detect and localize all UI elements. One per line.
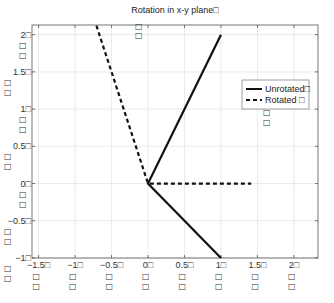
x-tick-label-glyph: □ bbox=[215, 282, 223, 291]
title-glyph: □ bbox=[135, 31, 143, 40]
x-tick-labels: −1.5□□□−1□□□−0.5□□□0□□□0.5□□□1□□□1.5□□□2… bbox=[27, 260, 300, 291]
y-tick-label-glyph: □ bbox=[4, 264, 12, 273]
x-tick-label-glyph: □ bbox=[288, 282, 296, 291]
y-tick-label-glyph: □ bbox=[19, 190, 27, 199]
x-tick-label-glyph: □ bbox=[106, 282, 114, 291]
y-tick-label: 1.5□ bbox=[13, 67, 32, 77]
legend-label: Rotated □ bbox=[265, 95, 305, 105]
x-tick-label-glyph: □ bbox=[251, 272, 259, 281]
grid-lines bbox=[32, 25, 318, 258]
series-group bbox=[96, 26, 251, 258]
y-tick-label: 0.5□ bbox=[13, 141, 32, 151]
y-tick-label-glyph: □ bbox=[19, 125, 27, 134]
y-tick-label-glyph: □ bbox=[4, 227, 12, 236]
y-tick-label-glyph: □ bbox=[19, 51, 27, 60]
x-tick-label-glyph: □ bbox=[142, 272, 150, 281]
x-tick-label: −1□ bbox=[67, 260, 83, 270]
x-tick-label: 1.5□ bbox=[248, 260, 267, 270]
y-tick-label-glyph: □ bbox=[4, 162, 12, 171]
y-tick-label: −0.5□ bbox=[8, 216, 32, 226]
y-tick-labels: −1□□□−0.5□□□0□□□0.5□□□1□□□1.5□□□2□□□ bbox=[4, 30, 32, 283]
x-tick-label-glyph: □ bbox=[251, 282, 259, 291]
legend-glyph: □ bbox=[263, 118, 271, 127]
rotation-chart: −1.5□□□−1□□□−0.5□□□0□□□0.5□□□1□□□1.5□□□2… bbox=[0, 0, 334, 303]
legend-label: Unrotated□ bbox=[265, 84, 311, 94]
x-tick-label: 1□ bbox=[216, 260, 227, 270]
y-tick-label: 1□ bbox=[21, 104, 32, 114]
x-tick-label-glyph: □ bbox=[33, 272, 41, 281]
series-line-rotated bbox=[96, 26, 251, 184]
x-tick-label-glyph: □ bbox=[215, 272, 223, 281]
y-tick-label-glyph: □ bbox=[4, 237, 12, 246]
x-tick-label-glyph: □ bbox=[142, 282, 150, 291]
chart-title: Rotation in x-y plane□ bbox=[131, 5, 219, 15]
x-tick-label: 2□ bbox=[289, 260, 300, 270]
x-tick-label-glyph: □ bbox=[178, 272, 186, 281]
x-tick-label: 0□ bbox=[143, 260, 154, 270]
y-tick-label-glyph: □ bbox=[19, 41, 27, 50]
y-tick-label: 2□ bbox=[21, 30, 32, 40]
x-tick-label: −0.5□ bbox=[100, 260, 124, 270]
y-tick-label-glyph: □ bbox=[4, 152, 12, 161]
x-tick-label-glyph: □ bbox=[69, 272, 77, 281]
title-glyph: □ bbox=[135, 22, 143, 31]
y-tick-label-glyph: □ bbox=[4, 274, 12, 283]
x-tick-label-glyph: □ bbox=[106, 272, 114, 281]
y-tick-label: −1□ bbox=[15, 253, 31, 263]
title-glyphs: □□ bbox=[135, 22, 143, 40]
x-tick-label-glyph: □ bbox=[69, 282, 77, 291]
legend: Unrotated□Rotated □□□ bbox=[242, 80, 311, 127]
y-tick-label-glyph: □ bbox=[19, 115, 27, 124]
y-tick-label-glyph: □ bbox=[19, 200, 27, 209]
legend-glyph: □ bbox=[263, 108, 271, 117]
x-tick-label-glyph: □ bbox=[178, 282, 186, 291]
y-tick-label-glyph: □ bbox=[4, 78, 12, 87]
x-tick-label-glyph: □ bbox=[288, 272, 296, 281]
y-tick-label: 0□ bbox=[21, 179, 32, 189]
x-tick-label: 0.5□ bbox=[176, 260, 195, 270]
y-tick-label-glyph: □ bbox=[4, 88, 12, 97]
x-tick-label-glyph: □ bbox=[33, 282, 41, 291]
